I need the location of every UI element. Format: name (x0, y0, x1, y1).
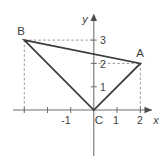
x-tick-label-2: 2 (137, 114, 143, 126)
point-label-c: C (95, 114, 103, 126)
x-tick-label-1: 1 (113, 114, 119, 126)
y-axis-arrowhead (91, 14, 97, 22)
point-label-a: A (136, 47, 144, 59)
triangle-abc (24, 40, 140, 110)
coordinate-plane-svg: -1 1 2 1 2 3 y x B A C (0, 0, 168, 163)
y-axis-label: y (81, 13, 89, 25)
y-tick-label-2: 2 (100, 58, 106, 70)
point-labels: B A C (17, 25, 144, 126)
tick-labels: -1 1 2 1 2 3 (61, 34, 143, 126)
x-axis-label: x (152, 114, 159, 126)
point-label-b: B (17, 25, 25, 37)
axes (13, 14, 152, 157)
coordinate-plane-figure: -1 1 2 1 2 3 y x B A C (0, 0, 168, 163)
x-axis-arrowhead (145, 107, 153, 113)
y-tick-label-3: 3 (100, 34, 106, 46)
x-tick-label--1: -1 (61, 114, 70, 126)
y-tick-label-1: 1 (100, 81, 106, 93)
triangle-outline (24, 40, 140, 110)
